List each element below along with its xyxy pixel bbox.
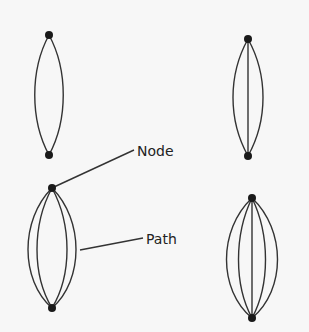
node-dot [45, 31, 53, 39]
path-line [252, 198, 278, 318]
path-line [233, 39, 248, 156]
graph-top-left [35, 35, 64, 155]
node-dot [48, 184, 56, 192]
path-line [35, 35, 49, 155]
node-dot [45, 151, 53, 159]
path-line [239, 198, 253, 318]
node-dot [244, 152, 252, 160]
graph-bottom-right [227, 198, 278, 318]
path-line [252, 198, 266, 318]
node-leader-line [54, 150, 134, 187]
graph-top-right [233, 39, 263, 156]
path-leader-line [80, 238, 143, 250]
path-line [49, 35, 63, 155]
node-label: Node [137, 143, 174, 159]
node-dot [248, 194, 256, 202]
node-dot [248, 314, 256, 322]
path-label: Path [146, 231, 177, 247]
diagram-canvas: Node Path [0, 0, 309, 332]
path-line [28, 188, 52, 308]
path-line [227, 198, 253, 318]
graph-bottom-left [28, 188, 76, 308]
path-line [248, 39, 263, 156]
path-line [52, 188, 76, 308]
diagram-svg: Node Path [0, 0, 309, 332]
node-dot [244, 35, 252, 43]
node-dot [48, 304, 56, 312]
